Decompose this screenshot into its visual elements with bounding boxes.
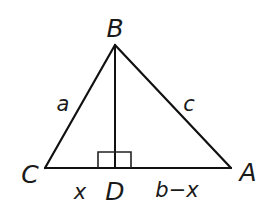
side-label-c: c	[183, 94, 195, 115]
side-label-x: x	[74, 182, 86, 203]
vertex-label-d: D	[105, 179, 124, 204]
triangle-diagram	[0, 0, 272, 211]
vertex-label-b: B	[106, 16, 123, 41]
side-ba	[115, 45, 231, 168]
vertex-label-c: C	[21, 162, 38, 187]
side-label-b-minus-x: b−x	[155, 180, 198, 201]
side-bc	[45, 45, 115, 168]
vertex-label-a: A	[239, 160, 256, 185]
side-label-a: a	[57, 94, 70, 115]
